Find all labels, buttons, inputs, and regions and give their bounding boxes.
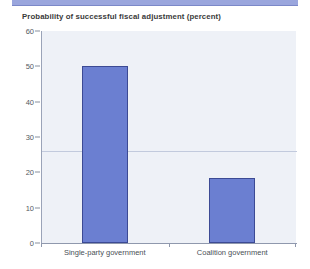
y-axis-tick-label: 30 bbox=[4, 133, 34, 142]
bar bbox=[82, 66, 128, 243]
x-axis-tick-mark bbox=[169, 243, 170, 247]
y-axis-tick-mark bbox=[35, 66, 40, 67]
x-axis-category-label: Coalition government bbox=[197, 248, 268, 257]
y-axis-tick-mark bbox=[35, 31, 40, 32]
bar bbox=[209, 178, 255, 243]
plot-area bbox=[41, 31, 296, 243]
y-axis-tick-label: 0 bbox=[4, 239, 34, 248]
x-axis-tick-mark bbox=[41, 243, 42, 247]
y-axis-tick-mark bbox=[35, 172, 40, 173]
y-axis-tick-label: 60 bbox=[4, 27, 34, 36]
y-axis-tick-mark bbox=[35, 137, 40, 138]
y-axis-tick-mark bbox=[35, 101, 40, 102]
x-axis-category-label: Single-party government bbox=[64, 248, 146, 257]
y-axis-tick-mark bbox=[35, 207, 40, 208]
top-banner bbox=[12, 0, 298, 6]
chart-title: Probability of successful fiscal adjustm… bbox=[22, 12, 221, 21]
y-axis-tick-label: 40 bbox=[4, 97, 34, 106]
figure-container: Probability of successful fiscal adjustm… bbox=[0, 0, 310, 269]
y-axis-line bbox=[41, 31, 42, 244]
x-axis-tick-mark bbox=[295, 243, 296, 247]
y-axis-tick-mark bbox=[35, 243, 40, 244]
reference-line bbox=[41, 151, 297, 152]
y-axis-tick-label: 50 bbox=[4, 62, 34, 71]
y-axis-tick-label: 20 bbox=[4, 168, 34, 177]
y-axis-tick-label: 10 bbox=[4, 203, 34, 212]
